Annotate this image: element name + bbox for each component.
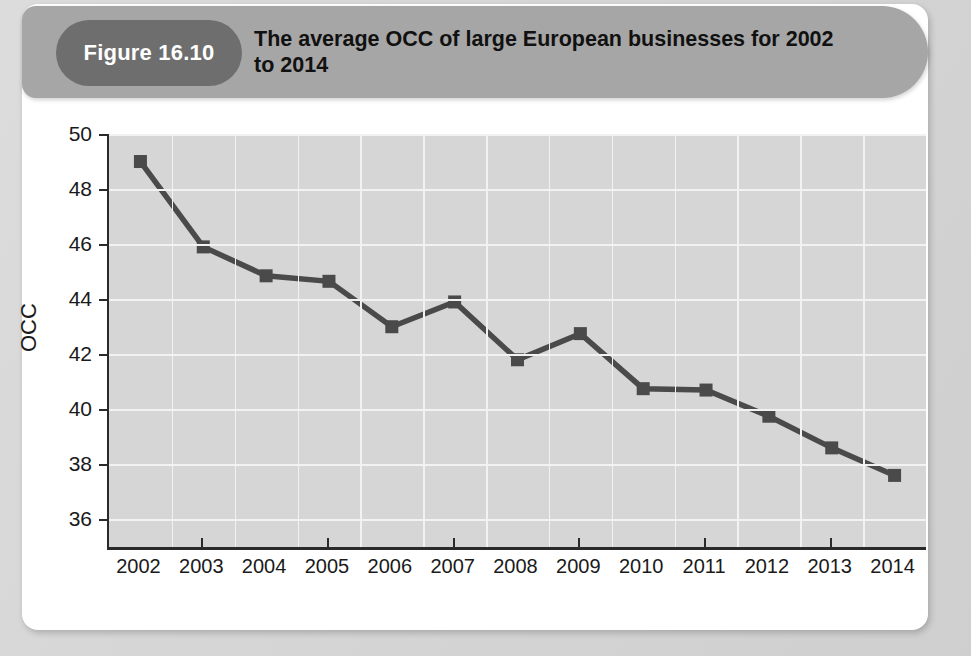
y-axis-tick-label: 38 <box>69 452 92 476</box>
data-point-marker <box>762 410 775 423</box>
y-axis-tick <box>99 409 108 411</box>
x-axis-tick <box>578 538 580 547</box>
x-axis-tick-label: 2007 <box>430 555 475 578</box>
y-axis-tick <box>99 519 108 521</box>
y-axis-tick-label: 46 <box>69 232 92 256</box>
gridline-vertical <box>800 134 802 547</box>
figure-title: The average OCC of large European busine… <box>254 26 854 78</box>
x-axis-tick <box>453 538 455 547</box>
gridline-horizontal <box>109 409 926 411</box>
data-point-marker <box>385 320 398 333</box>
gridline-vertical <box>172 134 174 547</box>
data-point-marker <box>888 469 901 482</box>
x-axis-tick-label: 2004 <box>242 555 287 578</box>
data-point-marker <box>322 275 335 288</box>
gridline-vertical <box>423 134 425 547</box>
gridline-vertical <box>863 134 865 547</box>
gridline-vertical <box>298 134 300 547</box>
gridline-horizontal <box>109 134 926 136</box>
data-point-marker <box>574 327 587 340</box>
figure-number-badge: Figure 16.10 <box>56 20 242 86</box>
x-axis-tick-label: 2003 <box>179 555 224 578</box>
gridline-vertical <box>612 134 614 547</box>
chart-container: OCC 3638404244464850 2002200320042005200… <box>22 100 928 628</box>
data-point-marker <box>448 295 461 308</box>
y-axis-tick <box>99 244 108 246</box>
x-axis-tick-label: 2008 <box>493 555 538 578</box>
gridline-vertical <box>486 134 488 547</box>
y-axis-tick-labels: 3638404244464850 <box>22 100 92 628</box>
figure-header-bar: Figure 16.10 The average OCC of large Eu… <box>22 6 928 98</box>
x-axis-tick <box>704 538 706 547</box>
x-axis-tick-label: 2014 <box>870 555 915 578</box>
x-axis-tick-label: 2002 <box>116 555 161 578</box>
x-axis-tick-label: 2005 <box>305 555 350 578</box>
x-axis-tick-label: 2006 <box>368 555 413 578</box>
y-axis-tick-label: 40 <box>69 397 92 421</box>
data-point-marker <box>197 240 210 253</box>
x-axis-tick <box>201 538 203 547</box>
gridline-horizontal <box>109 189 926 191</box>
y-axis-tick-label: 42 <box>69 342 92 366</box>
x-axis-tick <box>327 538 329 547</box>
x-axis-tick-label: 2009 <box>556 555 601 578</box>
x-axis-tick-label: 2013 <box>807 555 852 578</box>
series-line-occ <box>109 134 926 547</box>
data-point-marker <box>260 269 273 282</box>
gridline-vertical <box>549 134 551 547</box>
gridline-horizontal <box>109 299 926 301</box>
x-axis-tick-label: 2012 <box>745 555 790 578</box>
y-axis-tick-label: 36 <box>69 507 92 531</box>
y-axis-tick-label: 48 <box>69 177 92 201</box>
x-axis-tick-label: 2010 <box>619 555 664 578</box>
x-axis-tick-label: 2011 <box>683 555 726 578</box>
figure-number-label: Figure 16.10 <box>84 40 215 66</box>
gridline-horizontal <box>109 519 926 521</box>
data-point-marker <box>134 155 147 168</box>
y-axis-tick <box>99 189 108 191</box>
y-axis-tick-label: 50 <box>69 122 92 146</box>
y-axis-tick <box>99 354 108 356</box>
data-point-marker <box>825 441 838 454</box>
gridline-vertical <box>737 134 739 547</box>
x-axis-line <box>107 547 926 550</box>
y-axis-tick <box>99 464 108 466</box>
data-point-marker <box>637 382 650 395</box>
y-axis-tick <box>99 134 108 136</box>
gridline-horizontal <box>109 354 926 356</box>
gridline-vertical <box>360 134 362 547</box>
gridline-horizontal <box>109 244 926 246</box>
y-axis-tick-label: 44 <box>69 287 92 311</box>
figure-page: Figure 16.10 The average OCC of large Eu… <box>0 0 971 656</box>
x-axis-tick <box>830 538 832 547</box>
gridline-vertical <box>675 134 677 547</box>
plot-area <box>107 134 926 547</box>
gridline-horizontal <box>109 464 926 466</box>
data-point-marker <box>700 384 713 397</box>
gridline-vertical <box>235 134 237 547</box>
y-axis-tick <box>99 299 108 301</box>
